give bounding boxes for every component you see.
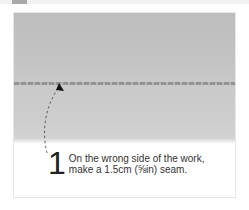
step-text-line1: On the wrong side of the work, — [69, 153, 205, 164]
step-1: 1 On the wrong side of the work, make a … — [48, 150, 204, 176]
step-text: On the wrong side of the work, make a 1.… — [69, 153, 205, 175]
instruction-panel: 1 On the wrong side of the work, make a … — [13, 12, 236, 198]
step-text-line2: make a 1.5cm (⅝in) seam. — [69, 164, 205, 175]
header-swatch — [12, 0, 27, 4]
header-bar — [0, 0, 249, 4]
step-number: 1 — [48, 150, 66, 176]
